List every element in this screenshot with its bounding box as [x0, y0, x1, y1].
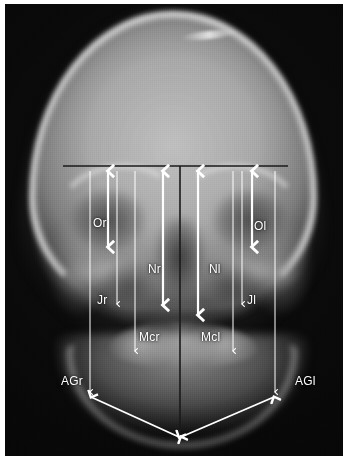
maxillary-sinus-right: [101, 260, 159, 314]
landmark-label-Or: Or: [93, 217, 107, 229]
annotation-vectors: [5, 4, 343, 456]
landmark-label-Jl: Jl: [247, 294, 256, 306]
reference-lines: [63, 166, 288, 441]
landmark-label-Jr: Jr: [97, 294, 107, 306]
soft-tissue-shadow: [19, 10, 325, 440]
landmark-label-AGl: AGl: [295, 375, 316, 387]
vertical-measurements: [90, 171, 275, 392]
diagonal-measurements: [91, 397, 274, 437]
radiograph-plate: OrOlNrNlJrJlMcrMclAGrAGl: [5, 4, 343, 456]
inner-skull-table: [38, 20, 308, 312]
outer-skull-table: [29, 11, 317, 311]
mastoid-right: [49, 218, 111, 314]
landmark-label-Nl: Nl: [209, 263, 221, 275]
landmark-label-Mcl: Mcl: [201, 331, 220, 343]
mandible-border: [67, 340, 297, 448]
orbit-left: [213, 190, 287, 250]
orbit-right: [71, 190, 145, 250]
film-vignette: [5, 4, 343, 456]
film-grain: [5, 4, 343, 456]
orbital-roof-left: [172, 157, 306, 263]
zygoma-left: [207, 244, 300, 296]
landmark-label-Nr: Nr: [148, 263, 161, 275]
diagonal-arrow-AGr-menton: [91, 397, 179, 437]
maxillary-sinus-left: [201, 260, 259, 314]
landmark-label-AGr: AGr: [61, 375, 83, 387]
annotation-overlay: OrOlNrNlJrJlMcrMclAGrAGl: [5, 4, 343, 456]
diagonal-arrow-AGl-menton: [181, 397, 274, 437]
orbital-roof-right: [52, 157, 186, 263]
cranial-vault: [32, 13, 314, 343]
sutural-streak: [181, 28, 238, 42]
zygoma-right: [61, 244, 154, 296]
nasal-cavity: [153, 218, 207, 304]
landmark-label-Ol: Ol: [254, 220, 266, 232]
maxilla-dentition: [109, 322, 257, 368]
landmark-label-Mcr: Mcr: [139, 331, 160, 343]
radiograph-figure: OrOlNrNlJrJlMcrMclAGrAGl: [0, 0, 348, 462]
mastoid-left: [249, 218, 311, 314]
mandible-body: [57, 334, 307, 452]
